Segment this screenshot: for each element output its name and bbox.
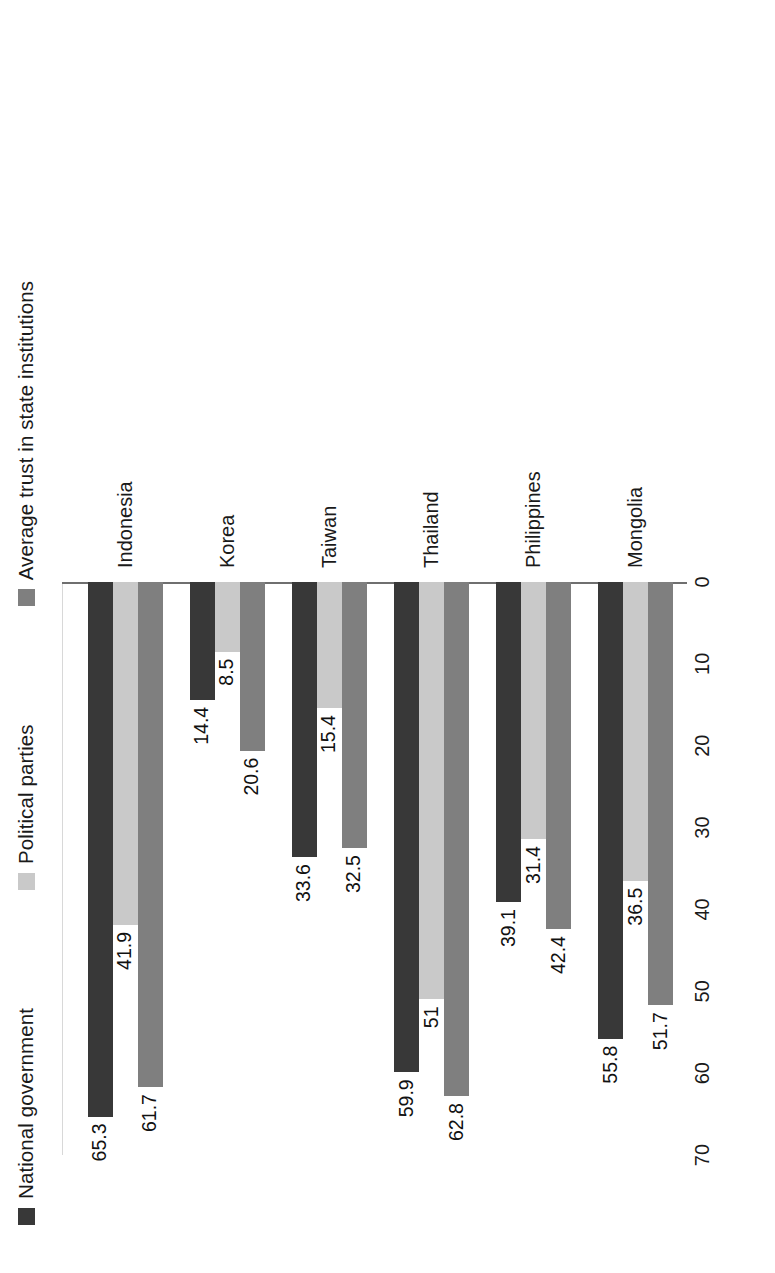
bar-row: 59.9 (394, 582, 419, 1155)
legend-item-national-government[interactable]: National government (16, 1008, 37, 1225)
bar-value-label: 32.5 (345, 855, 365, 893)
axis-tick-label: 0 (692, 576, 712, 587)
bar-value-label: 51 (422, 1006, 442, 1028)
bar-group: 14.48.520.6 (184, 582, 270, 1155)
bar-value-label: 15.4 (320, 715, 340, 753)
bar-row: 41.9 (113, 582, 138, 1155)
legend-label-national-government: National government (16, 1008, 37, 1199)
bar-row: 55.8 (598, 582, 623, 1155)
bar-row: 8.5 (215, 582, 240, 1155)
bar[interactable]: 14.4 (190, 582, 215, 700)
bar[interactable]: 31.4 (521, 582, 546, 839)
bar-value-label: 8.5 (217, 659, 237, 686)
legend-label-political-parties: Political parties (16, 724, 37, 864)
bar-row: 39.1 (496, 582, 521, 1155)
bar-row: 31.4 (521, 582, 546, 1155)
bar-group: 55.836.551.7 (593, 582, 679, 1155)
bar-value-label: 33.6 (295, 864, 315, 902)
bar-value-label: 31.4 (524, 846, 544, 884)
bar-row: 61.7 (138, 582, 163, 1155)
bar-group: 59.95162.8 (389, 582, 475, 1155)
bar-value-label: 36.5 (626, 888, 646, 926)
bar-value-label: 51.7 (651, 1012, 671, 1050)
legend-item-political-parties[interactable]: Political parties (16, 724, 37, 890)
bar[interactable]: 42.4 (546, 582, 571, 929)
bar[interactable]: 8.5 (215, 582, 240, 652)
category-label: Taiwan (286, 472, 372, 582)
bar-row: 14.4 (190, 582, 215, 1155)
axis-tick-label: 50 (692, 980, 712, 1002)
bar-row: 36.5 (623, 582, 648, 1155)
axis-tick-label: 10 (692, 653, 712, 675)
bar[interactable]: 61.7 (138, 582, 163, 1087)
axis-tick-label: 30 (692, 816, 712, 838)
bar-row: 20.6 (240, 582, 265, 1155)
rotated-figure-wrapper: National government Political parties Av… (0, 0, 775, 1273)
bar-row: 65.3 (88, 582, 113, 1155)
axis-tick-label: 60 (692, 1062, 712, 1084)
legend-swatch-political-parties (18, 873, 35, 890)
legend-label-average-trust: Average trust in state institutions (16, 281, 37, 580)
category-label: Philippines (491, 472, 577, 582)
category-label: Mongolia (593, 472, 679, 582)
bar[interactable]: 51 (419, 582, 444, 999)
value-axis-tick-labels: 706050403020100 (692, 582, 732, 1155)
chart-legend: National government Political parties Av… (16, 281, 37, 1225)
bar[interactable]: 15.4 (317, 582, 342, 708)
bar-row: 32.5 (342, 582, 367, 1155)
bar-row: 51.7 (648, 582, 673, 1155)
legend-swatch-average-trust (18, 589, 35, 606)
bar-row: 33.6 (292, 582, 317, 1155)
bar-value-label: 14.4 (192, 707, 212, 745)
bar[interactable]: 59.9 (394, 582, 419, 1072)
bar[interactable]: 20.6 (240, 582, 265, 751)
category-axis-labels: IndonesiaKoreaTaiwanThailandPhilippinesM… (82, 472, 679, 582)
legend-item-average-trust[interactable]: Average trust in state institutions (16, 281, 37, 606)
category-label: Korea (184, 472, 270, 582)
bar[interactable]: 62.8 (444, 582, 469, 1096)
bar-group: 39.131.442.4 (491, 582, 577, 1155)
bar[interactable]: 36.5 (623, 582, 648, 881)
bar[interactable]: 41.9 (113, 582, 138, 925)
axis-tick-label: 40 (692, 898, 712, 920)
bar-group: 33.615.432.5 (286, 582, 372, 1155)
bar[interactable]: 32.5 (342, 582, 367, 848)
legend-swatch-national-government (18, 1208, 35, 1225)
category-label: Thailand (389, 472, 475, 582)
bar[interactable]: 51.7 (648, 582, 673, 1005)
bar-value-label: 20.6 (242, 758, 262, 796)
bar[interactable]: 39.1 (496, 582, 521, 902)
plot-top-rule (62, 582, 63, 1155)
bar-value-label: 55.8 (601, 1046, 621, 1084)
bar-value-label: 39.1 (499, 909, 519, 947)
bar-value-label: 61.7 (140, 1094, 160, 1132)
bar-value-label: 65.3 (90, 1124, 110, 1162)
axis-tick-label: 20 (692, 735, 712, 757)
bar-group: 65.341.961.7 (82, 582, 168, 1155)
bar-row: 62.8 (444, 582, 469, 1155)
bar-value-label: 59.9 (397, 1079, 417, 1117)
bar[interactable]: 55.8 (598, 582, 623, 1039)
category-label: Indonesia (82, 472, 168, 582)
plot-area: 65.341.961.714.48.520.633.615.432.559.95… (82, 582, 679, 1155)
axis-tick-label: 70 (692, 1144, 712, 1166)
bar-row: 51 (419, 582, 444, 1155)
bar[interactable]: 65.3 (88, 582, 113, 1117)
bar-row: 15.4 (317, 582, 342, 1155)
bar-groups: 65.341.961.714.48.520.633.615.432.559.95… (82, 582, 679, 1155)
bar[interactable]: 33.6 (292, 582, 317, 857)
bar-chart-figure: National government Political parties Av… (0, 0, 775, 1273)
bar-row: 42.4 (546, 582, 571, 1155)
bar-value-label: 41.9 (115, 932, 135, 970)
bar-value-label: 62.8 (447, 1103, 467, 1141)
bar-value-label: 42.4 (549, 936, 569, 974)
